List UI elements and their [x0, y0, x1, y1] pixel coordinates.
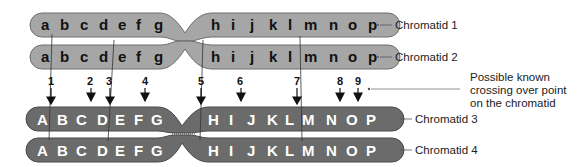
crossover-point-numbers: 1 2 3 4 5 6 7 8 9 — [48, 75, 361, 87]
arrow-icon — [141, 88, 149, 101]
point-number: 7 — [294, 75, 300, 87]
chromosome-crossover-diagram: a b c d e f g h i j k l m n o p a b c d … — [0, 0, 577, 167]
svg-text:i: i — [231, 48, 235, 65]
svg-text:P: P — [366, 142, 376, 159]
svg-text:N: N — [326, 111, 337, 128]
svg-text:o: o — [348, 16, 357, 33]
svg-text:n: n — [329, 16, 338, 33]
svg-text:B: B — [57, 142, 68, 159]
annotation-line-2: crossing over point — [470, 84, 567, 96]
svg-text:D: D — [97, 142, 108, 159]
svg-text:A: A — [37, 142, 48, 159]
svg-text:D: D — [97, 111, 108, 128]
svg-text:m: m — [304, 48, 317, 65]
svg-text:M: M — [302, 142, 315, 159]
point-number: 5 — [198, 75, 204, 87]
svg-text:a: a — [41, 48, 50, 65]
svg-text:g: g — [154, 16, 163, 33]
svg-text:c: c — [80, 48, 88, 65]
chromatid-2-label: Chromatid 2 — [395, 51, 458, 63]
svg-text:h: h — [211, 48, 220, 65]
arrow-icon — [354, 88, 362, 101]
svg-text:e: e — [118, 16, 126, 33]
svg-text:l: l — [288, 16, 292, 33]
svg-text:o: o — [348, 48, 357, 65]
point-number: 8 — [337, 75, 343, 87]
svg-text:J: J — [247, 142, 255, 159]
chromatid-4-label: Chromatid 4 — [415, 144, 478, 156]
svg-text:l: l — [288, 48, 292, 65]
svg-text:k: k — [269, 16, 278, 33]
svg-text:a: a — [41, 16, 50, 33]
svg-text:H: H — [208, 111, 219, 128]
annotation-line-3: on the chromatid — [470, 97, 556, 109]
point-number: 6 — [237, 75, 243, 87]
svg-text:J: J — [247, 111, 255, 128]
arrow-icon — [336, 88, 344, 101]
svg-text:p: p — [368, 48, 377, 65]
arrow-icon — [87, 88, 95, 101]
crossover-arrows — [47, 88, 362, 104]
crossover-annotation: Possible known crossing over point on th… — [368, 71, 568, 109]
chromatid-labels: Chromatid 1 Chromatid 2 Chromatid 3 Chro… — [377, 19, 478, 156]
svg-text:K: K — [267, 142, 278, 159]
svg-text:e: e — [118, 48, 126, 65]
point-number: 9 — [355, 75, 361, 87]
svg-text:L: L — [285, 111, 294, 128]
svg-text:d: d — [99, 48, 108, 65]
annotation-line-1: Possible known — [470, 71, 550, 83]
svg-text:b: b — [60, 16, 69, 33]
svg-text:O: O — [346, 142, 358, 159]
svg-text:i: i — [231, 16, 235, 33]
svg-text:L: L — [285, 142, 294, 159]
arrow-icon — [197, 88, 205, 104]
svg-text:C: C — [76, 142, 87, 159]
chromatid-3-label: Chromatid 3 — [415, 113, 478, 125]
svg-text:p: p — [368, 16, 377, 33]
svg-text:K: K — [267, 111, 278, 128]
svg-text:n: n — [329, 48, 338, 65]
svg-text:E: E — [115, 111, 125, 128]
svg-text:j: j — [249, 16, 254, 33]
svg-text:I: I — [229, 142, 233, 159]
svg-text:P: P — [366, 111, 376, 128]
svg-text:G: G — [151, 142, 163, 159]
point-number: 2 — [87, 75, 93, 87]
svg-text:g: g — [154, 48, 163, 65]
svg-text:C: C — [76, 111, 87, 128]
svg-text:A: A — [37, 111, 48, 128]
svg-text:c: c — [80, 16, 88, 33]
svg-text:d: d — [99, 16, 108, 33]
svg-text:M: M — [302, 111, 315, 128]
svg-text:N: N — [326, 142, 337, 159]
arrow-icon — [293, 88, 301, 104]
chromatid-1-label: Chromatid 1 — [395, 19, 458, 31]
svg-text:F: F — [134, 142, 143, 159]
svg-text:I: I — [229, 111, 233, 128]
arrow-icon — [47, 88, 55, 104]
svg-text:O: O — [346, 111, 358, 128]
svg-text:E: E — [115, 142, 125, 159]
arrow-icon — [237, 88, 245, 101]
svg-text:F: F — [134, 111, 143, 128]
svg-text:j: j — [249, 48, 254, 65]
svg-text:b: b — [60, 48, 69, 65]
point-number: 3 — [106, 75, 112, 87]
svg-text:h: h — [211, 16, 220, 33]
point-number: 1 — [48, 75, 54, 87]
svg-text:m: m — [304, 16, 317, 33]
point-number: 4 — [142, 75, 149, 87]
svg-text:H: H — [208, 142, 219, 159]
svg-text:B: B — [57, 111, 68, 128]
svg-text:k: k — [269, 48, 278, 65]
arrow-icon — [106, 88, 114, 104]
svg-text:G: G — [151, 111, 163, 128]
